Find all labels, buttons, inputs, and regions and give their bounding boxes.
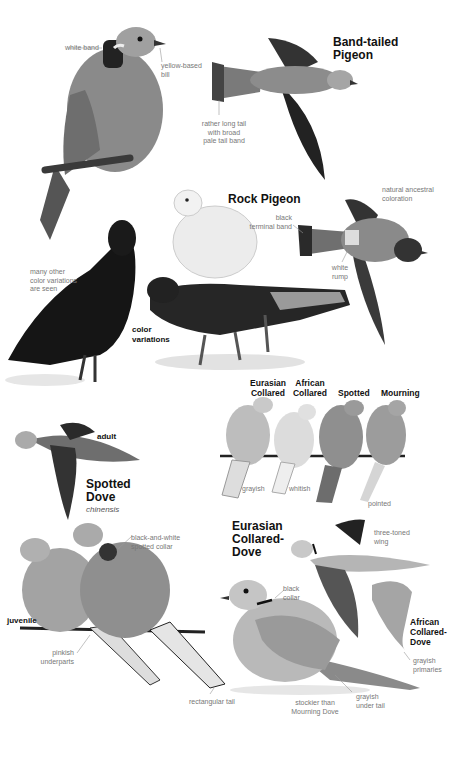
spotted-dove-title: Spotted Dove <box>86 478 131 504</box>
band-tailed-pigeon-perched-illustration <box>40 27 166 240</box>
note-rectangular-tail: rectangular tail <box>189 698 235 707</box>
lineup-label-spotted: Spotted <box>338 388 370 398</box>
note-three-toned-wing: three-toned wing <box>374 529 410 546</box>
note-grayish-under-tail: grayish under tail <box>356 693 385 710</box>
note-many-color-variations: many other color variations are seen <box>30 268 77 294</box>
juvenile-label: juvenile <box>7 616 37 626</box>
spotted-dove-subspecies: chinensis <box>86 505 119 514</box>
note-pointed-tail: pointed <box>368 500 391 509</box>
band-tailed-pigeon-title: Band-tailed Pigeon <box>333 36 398 62</box>
spotted-dove-flying-illustration <box>15 423 140 520</box>
rock-pigeon-black-illustration <box>5 220 136 386</box>
eurasian-collared-dove-title: Eurasian Collared- Dove <box>232 520 284 559</box>
note-white-rump: white rump <box>328 264 352 281</box>
adult-label: adult <box>97 432 116 442</box>
note-pinkish-underparts: pinkish underparts <box>30 649 74 666</box>
note-white-band: white band <box>65 44 99 53</box>
spotted-dove-perched-illustration <box>20 523 225 694</box>
lineup-label-african-collared: African Collared <box>292 378 328 398</box>
lineup-label-mourning: Mourning <box>381 388 420 398</box>
note-black-collar: black collar <box>283 585 300 602</box>
note-yellow-based-bill: yellow-based bill <box>161 62 202 79</box>
color-variations-label: color variations <box>132 325 170 345</box>
note-stockier-than-mourning: stockier than Mourning Dove <box>287 699 343 716</box>
note-tail-band: rather long tail with broad pale tail ba… <box>194 120 254 146</box>
rock-pigeon-flying-illustration <box>293 199 428 345</box>
note-ancestral-coloration: natural ancestral coloration <box>382 186 434 203</box>
note-whitish-tail: whitish <box>289 485 310 494</box>
field-guide-page: Band-tailed Pigeon white band yellow-bas… <box>0 0 455 764</box>
lineup-label-eurasian-collared: Eurasian Collared <box>250 378 286 398</box>
african-collared-dove-title: African Collared- Dove <box>410 617 447 647</box>
rock-pigeon-checkered-illustration <box>147 277 350 370</box>
note-grayish-primaries: grayish primaries <box>413 657 442 674</box>
african-collared-dove-wing-illustration <box>372 581 412 660</box>
note-spotted-collar: black-and-white spotted collar <box>131 534 180 551</box>
note-grayish-tail: grayish <box>242 485 265 494</box>
rock-pigeon-title: Rock Pigeon <box>228 193 301 206</box>
note-black-terminal-band: black terminal band <box>240 214 292 231</box>
